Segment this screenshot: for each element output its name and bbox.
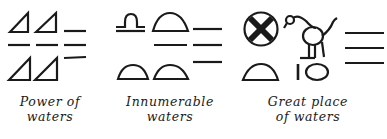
caption-line: waters xyxy=(12,109,88,124)
water-line-icon xyxy=(64,57,86,58)
dome-glyph-icon xyxy=(243,64,278,80)
caption-great-place-of-waters: Great place of waters xyxy=(258,94,358,124)
triangle-glyph-icon xyxy=(36,13,56,32)
group-great-place-of-waters xyxy=(243,13,384,81)
caption-line: Power of xyxy=(12,94,88,109)
group-power-of-waters xyxy=(8,13,86,80)
dome-glyph-icon xyxy=(154,65,188,79)
cross-circle-glyph-icon xyxy=(245,13,278,46)
group-innumerable-waters xyxy=(116,13,222,79)
caption-line: waters xyxy=(118,109,222,124)
dome-glyph-icon xyxy=(153,13,188,31)
triangle-glyph-icon xyxy=(10,13,28,32)
caption-line: Great place xyxy=(258,94,358,109)
caption-innumerable-waters: Innumerable waters xyxy=(118,94,222,124)
caption-power-of-waters: Power of waters xyxy=(12,94,88,124)
libra-glyph-icon xyxy=(116,14,145,31)
caption-line: Innumerable xyxy=(118,94,222,109)
caption-line: of waters xyxy=(258,109,358,124)
oval-glyph-icon xyxy=(306,64,328,80)
dome-glyph-icon xyxy=(118,65,148,79)
triangle-glyph-icon xyxy=(9,58,30,80)
triangle-glyph-icon xyxy=(35,58,57,80)
bird-glyph-icon xyxy=(284,16,337,58)
